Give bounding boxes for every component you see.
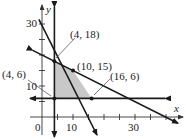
linear-programming-graph: y x 30 10 0 10 30 (4, 18) (10, 15) (4, 6… (0, 0, 186, 139)
tick-label-y-30: 30 (26, 17, 38, 29)
vertex-4-6 (52, 96, 56, 100)
tick-label-origin: 0 (35, 121, 41, 133)
leader-16-6 (94, 79, 110, 95)
tick-label-y-10: 10 (26, 80, 38, 92)
vertex-16-6 (90, 96, 94, 100)
tick-label-x-10: 10 (66, 121, 78, 133)
label-point-4-18: (4, 18) (70, 28, 100, 41)
y-axis-label: y (45, 3, 51, 15)
label-point-10-15: (10, 15) (77, 60, 112, 73)
leader-4-18 (56, 38, 75, 58)
vertex-4-18 (52, 59, 56, 63)
x-axis-label: x (173, 102, 179, 114)
label-point-4-6: (4, 6) (2, 68, 26, 81)
tick-label-x-30: 30 (128, 121, 140, 133)
vertex-10-15 (71, 69, 75, 73)
label-point-16-6: (16, 6) (110, 70, 140, 83)
